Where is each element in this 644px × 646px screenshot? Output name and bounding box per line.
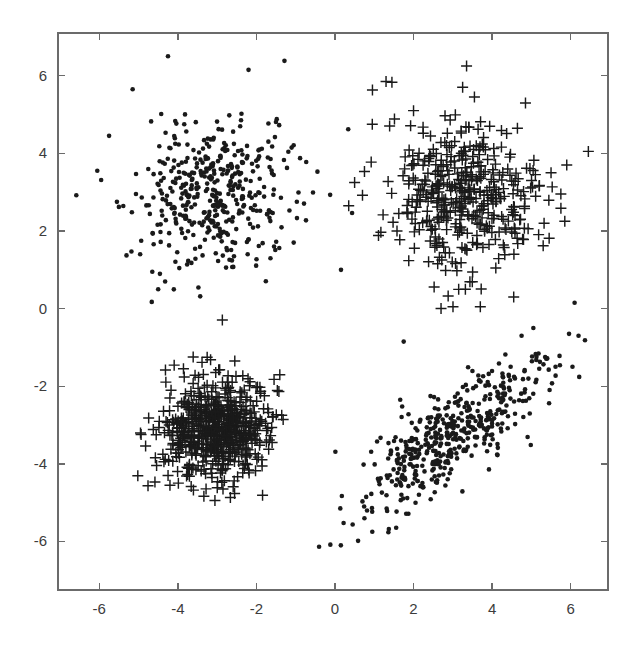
data-point-dot xyxy=(504,403,509,408)
data-point-dot xyxy=(168,186,173,191)
data-point-dot xyxy=(253,203,258,208)
data-point-dot xyxy=(550,381,555,386)
data-point-dot xyxy=(163,130,168,135)
data-point-dot xyxy=(553,364,558,369)
data-point-dot xyxy=(146,203,151,208)
data-point-dot xyxy=(172,287,177,292)
data-point-dot xyxy=(221,253,226,258)
data-point-dot xyxy=(442,421,447,426)
data-point-dot xyxy=(447,452,452,457)
data-point-dot xyxy=(441,472,446,477)
data-point-dot xyxy=(177,176,182,181)
data-point-dot xyxy=(398,481,403,486)
data-point-dot xyxy=(245,252,250,257)
data-point-dot xyxy=(228,179,233,184)
data-point-dot xyxy=(477,422,482,427)
data-point-dot xyxy=(238,124,243,129)
data-point-dot xyxy=(465,444,470,449)
data-point-dot xyxy=(394,509,399,514)
data-point-dot xyxy=(530,359,535,364)
data-point-dot xyxy=(194,120,199,125)
data-point-dot xyxy=(124,253,129,258)
data-point-dot xyxy=(420,463,425,468)
data-point-dot xyxy=(302,201,307,206)
data-point-dot xyxy=(189,183,194,188)
data-point-dot xyxy=(165,156,170,161)
data-point-dot xyxy=(375,439,380,444)
data-point-dot xyxy=(507,374,512,379)
data-point-dot xyxy=(206,225,211,230)
data-point-dot xyxy=(411,464,416,469)
data-point-dot xyxy=(117,205,122,210)
data-point-dot xyxy=(362,516,367,521)
data-point-dot xyxy=(443,460,448,465)
data-point-dot xyxy=(490,437,495,442)
data-point-dot xyxy=(194,165,199,170)
data-point-dot xyxy=(226,232,231,237)
data-point-dot xyxy=(350,211,355,216)
data-point-dot xyxy=(219,231,224,236)
data-point-dot xyxy=(173,181,178,186)
y-tick-label: -6 xyxy=(34,532,47,549)
data-point-dot xyxy=(267,165,272,170)
data-point-dot xyxy=(221,168,226,173)
data-point-dot xyxy=(179,227,184,232)
data-point-dot xyxy=(241,204,246,209)
data-point-dot xyxy=(134,172,139,177)
data-point-dot xyxy=(451,426,456,431)
data-point-dot xyxy=(404,511,409,516)
data-point-dot xyxy=(245,144,250,149)
data-point-dot xyxy=(414,437,419,442)
data-point-dot xyxy=(149,300,154,305)
data-point-dot xyxy=(155,222,160,227)
data-point-dot xyxy=(493,385,498,390)
data-point-dot xyxy=(380,490,385,495)
data-point-dot xyxy=(175,250,180,255)
data-point-dot xyxy=(395,458,400,463)
data-point-dot xyxy=(231,265,236,270)
data-point-dot xyxy=(146,167,151,172)
data-point-dot xyxy=(191,233,196,238)
data-point-dot xyxy=(537,366,542,371)
data-point-dot xyxy=(425,431,430,436)
data-point-dot xyxy=(151,242,156,247)
data-point-dot xyxy=(470,369,475,374)
data-point-dot xyxy=(521,377,526,382)
data-point-dot xyxy=(395,446,400,451)
data-point-dot xyxy=(274,240,279,245)
data-point-dot xyxy=(339,268,344,273)
data-point-dot xyxy=(200,223,205,228)
data-point-dot xyxy=(466,365,471,370)
data-point-dot xyxy=(187,173,192,178)
data-point-dot xyxy=(396,452,401,457)
data-point-dot xyxy=(139,238,144,243)
data-point-dot xyxy=(399,493,404,498)
data-point-dot xyxy=(171,165,176,170)
data-point-dot xyxy=(417,492,422,497)
data-point-dot xyxy=(482,441,487,446)
y-tick-label: -2 xyxy=(34,377,47,394)
data-point-dot xyxy=(217,226,222,231)
data-point-dot xyxy=(378,436,383,441)
data-point-dot xyxy=(409,438,414,443)
data-point-dot xyxy=(489,433,494,438)
data-point-dot xyxy=(257,191,262,196)
data-point-dot xyxy=(389,448,394,453)
data-point-dot xyxy=(376,476,381,481)
data-point-dot xyxy=(183,112,188,117)
data-point-dot xyxy=(227,113,232,118)
data-point-dot xyxy=(251,169,256,174)
data-point-dot xyxy=(478,379,483,384)
data-point-dot xyxy=(399,462,404,467)
data-point-dot xyxy=(262,185,267,190)
data-point-dot xyxy=(415,464,420,469)
data-point-dot xyxy=(547,401,552,406)
data-point-dot xyxy=(158,171,163,176)
data-point-dot xyxy=(365,508,370,513)
y-tick-label: 0 xyxy=(39,300,47,317)
data-point-dot xyxy=(459,411,464,416)
data-point-dot xyxy=(304,218,309,223)
data-point-dot xyxy=(567,332,572,337)
data-point-dot xyxy=(149,119,154,124)
data-point-dot xyxy=(216,259,221,264)
